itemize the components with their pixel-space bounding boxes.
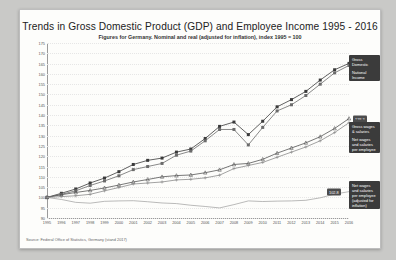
data-point	[160, 180, 163, 183]
x-tick-label: 1997	[72, 221, 80, 225]
data-point	[333, 71, 336, 74]
x-tick-label: 2013	[302, 221, 310, 225]
data-point	[103, 189, 106, 192]
y-tick-label: 170	[39, 51, 46, 56]
data-point	[132, 182, 135, 185]
data-point	[333, 68, 336, 71]
data-point	[261, 161, 264, 164]
data-point	[290, 98, 293, 101]
data-point	[232, 128, 235, 131]
data-point	[204, 139, 207, 142]
data-point	[204, 176, 207, 179]
data-point	[247, 143, 250, 146]
chart-subtitle: Figures for Germany. Nominal and real (a…	[20, 34, 380, 40]
legend-national-income: National Income	[349, 68, 380, 81]
data-point	[103, 177, 106, 180]
chart-card: Trends in Gross Domestic Product (GDP) a…	[19, 9, 381, 249]
x-tick-label: 2002	[143, 221, 151, 225]
y-tick-label: 110	[39, 174, 45, 179]
series-line	[47, 65, 349, 197]
data-point	[146, 159, 149, 162]
screenshot-root: Trends in Gross Domestic Product (GDP) a…	[0, 0, 396, 260]
data-point	[304, 90, 307, 93]
x-tick-label: 2011	[273, 221, 281, 225]
data-point	[218, 125, 221, 128]
y-tick-label: 135	[39, 123, 46, 128]
data-point	[103, 179, 106, 182]
data-point	[247, 164, 250, 167]
x-tick-label: 2000	[115, 221, 123, 225]
data-point	[276, 105, 279, 108]
data-point	[232, 121, 235, 124]
plot-area: 1751701651601551501451401351301251201151…	[47, 43, 349, 218]
gridline	[47, 218, 349, 219]
data-point	[276, 109, 279, 112]
data-point	[319, 83, 322, 86]
x-tick-label: 1999	[100, 221, 108, 225]
chart-title: Trends in Gross Domestic Product (GDP) a…	[20, 21, 380, 32]
x-tick-label: 2007	[215, 221, 223, 225]
x-tick-label: 1995	[43, 221, 51, 225]
data-point	[117, 174, 120, 177]
x-tick-label: 2010	[258, 221, 266, 225]
data-point	[132, 163, 135, 166]
legend-net-wages: Net wages and salaries per employee	[349, 135, 380, 153]
x-tick-label: 1998	[86, 221, 94, 225]
data-point	[304, 94, 307, 97]
data-point	[132, 168, 135, 171]
x-tick-label: 2012	[287, 221, 295, 225]
x-tick-label: 2003	[158, 221, 166, 225]
x-tick-label: 2008	[230, 221, 238, 225]
x-tick-label: 2016	[345, 221, 353, 225]
series-line	[47, 63, 349, 197]
data-point	[290, 151, 293, 154]
data-point	[319, 79, 322, 82]
data-point	[189, 150, 192, 153]
data-point	[89, 193, 92, 196]
x-tick-label: 2015	[330, 221, 338, 225]
x-tick-label: 2004	[172, 221, 180, 225]
y-tick-label: 100	[39, 195, 46, 200]
y-tick-label: 175	[39, 41, 46, 46]
x-tick-label: 2014	[316, 221, 324, 225]
x-tick-label: 2005	[187, 221, 195, 225]
data-point	[275, 156, 278, 159]
data-point	[232, 167, 235, 170]
y-tick-label: 145	[39, 102, 46, 107]
data-point	[218, 128, 221, 131]
data-point	[347, 117, 350, 120]
data-point	[74, 194, 77, 197]
series-lines	[47, 43, 349, 218]
data-point	[175, 154, 178, 157]
data-point	[146, 165, 149, 168]
x-tick-label: 2001	[129, 221, 137, 225]
data-point	[161, 157, 164, 160]
data-point	[89, 184, 92, 187]
y-tick-label: 155	[39, 82, 46, 87]
data-point	[175, 151, 178, 154]
data-point	[161, 162, 164, 165]
data-point	[290, 103, 293, 106]
x-tick-label: 2006	[201, 221, 209, 225]
data-point	[261, 126, 264, 129]
y-tick-label: 150	[39, 92, 46, 97]
series-line	[47, 123, 349, 198]
y-tick-label: 165	[39, 61, 46, 66]
value-label-net-wages-real: 102.8	[327, 188, 341, 195]
source-note: Source: Federal Office of Statistics, Ge…	[26, 237, 127, 242]
data-point	[218, 174, 221, 177]
data-point	[319, 139, 322, 142]
y-tick-label: 140	[39, 113, 46, 118]
y-tick-label: 130	[39, 133, 46, 138]
x-tick-label: 1996	[57, 221, 65, 225]
y-tick-label: 105	[39, 185, 46, 190]
series-line	[47, 119, 349, 198]
data-point	[117, 170, 120, 173]
data-point	[247, 133, 250, 136]
data-point	[261, 120, 264, 123]
y-tick-label: 125	[39, 143, 46, 148]
legend-net-wages-real: Net wages and salaries per employee (adj…	[349, 181, 380, 209]
data-point	[175, 178, 178, 181]
data-point	[304, 145, 307, 148]
y-tick-label: 115	[39, 164, 45, 169]
